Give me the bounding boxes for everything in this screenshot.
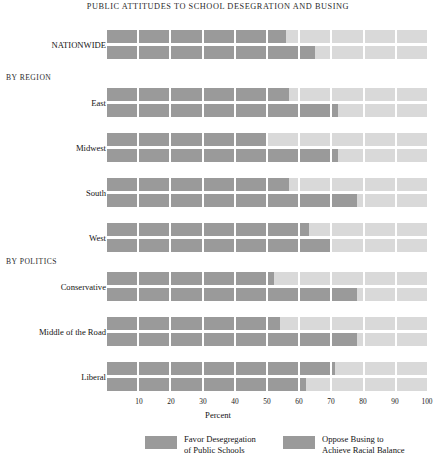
bar-fill (171, 239, 201, 252)
bar-cell (236, 178, 266, 191)
bar-fill (107, 272, 137, 285)
bar-cell (236, 194, 266, 207)
bar-cell (365, 362, 395, 375)
x-axis-tick: 20 (167, 397, 174, 406)
bar-cell (268, 149, 298, 162)
bar-cell (204, 223, 234, 236)
bar-cell (204, 133, 234, 146)
bar-cell (204, 239, 234, 252)
bar-fill (204, 133, 234, 146)
bar-fill (236, 317, 266, 330)
bar-fill (139, 149, 169, 162)
bar-cell (268, 104, 298, 117)
bar-fill (332, 104, 338, 117)
bar-cell (236, 362, 266, 375)
bar-cell (365, 133, 395, 146)
bar-fill (107, 239, 137, 252)
group-heading: BY REGION (6, 73, 51, 82)
bar-fill (204, 30, 234, 43)
bar-fill (171, 178, 201, 191)
row-label: East (91, 99, 106, 108)
bar-fill (139, 317, 169, 330)
bar-fill (300, 104, 330, 117)
bar-cell (107, 194, 137, 207)
bar-cell (204, 317, 234, 330)
bar-cell (139, 272, 169, 285)
bar-fill (300, 149, 330, 162)
bar-cell (268, 133, 298, 146)
bar-fill (204, 288, 234, 301)
bar-cell (171, 239, 201, 252)
bar-fill (171, 149, 201, 162)
bar-fill (300, 333, 330, 346)
bar-cell (397, 194, 427, 207)
legend-label: Favor Desegregationof Public Schools (184, 434, 256, 456)
bar-fill (236, 223, 266, 236)
bar-cell (332, 333, 362, 346)
bar-cell (300, 46, 330, 59)
bar-cell (204, 88, 234, 101)
bar-cell (365, 239, 395, 252)
bar-cell (171, 317, 201, 330)
bar-cell (236, 46, 266, 59)
bar-cell (300, 272, 330, 285)
bar-cell (397, 272, 427, 285)
x-axis-tick: 100 (421, 397, 432, 406)
bar-fill (139, 288, 169, 301)
bar-cell (365, 46, 395, 59)
bar-cell (139, 46, 169, 59)
bar-fill (107, 178, 137, 191)
row-label: Middle of the Road (39, 328, 106, 337)
bar-fill (268, 46, 298, 59)
bar-fill (204, 317, 234, 330)
bar-fill (268, 239, 298, 252)
row-label: Conservative (61, 283, 106, 292)
bar-cell (300, 223, 330, 236)
bar-cell (268, 378, 298, 391)
bar-cell (107, 178, 137, 191)
bar-cell (397, 288, 427, 301)
bar-cell (300, 333, 330, 346)
bar-cell (397, 104, 427, 117)
legend-label-line: of Public Schools (184, 445, 256, 456)
bar-fill (236, 133, 266, 146)
bar-cell (365, 333, 395, 346)
bar-oppose (107, 194, 427, 207)
bar-cell (204, 30, 234, 43)
bar-fill (300, 46, 315, 59)
bar-cell (204, 333, 234, 346)
bar-cell (139, 88, 169, 101)
bar-fill (268, 30, 286, 43)
bar-cell (171, 223, 201, 236)
bar-fill (107, 104, 137, 117)
x-axis-tick: 50 (263, 397, 270, 406)
bar-cell (365, 317, 395, 330)
bar-cell (139, 288, 169, 301)
bar-cell (268, 223, 298, 236)
bar-cell (332, 272, 362, 285)
legend-label-line: Favor Desegregation (184, 434, 256, 445)
bar-cell (397, 239, 427, 252)
bar-cell (300, 317, 330, 330)
bar-fill (139, 239, 169, 252)
bar-cell (107, 317, 137, 330)
bar-fill (236, 333, 266, 346)
bar-cell (397, 333, 427, 346)
row-label: Midwest (76, 144, 106, 153)
legend-swatch (145, 436, 177, 449)
bar-cell (365, 272, 395, 285)
bar-fill (107, 288, 137, 301)
bar-fill (300, 362, 330, 375)
bar-fill (268, 317, 280, 330)
bar-cell (171, 272, 201, 285)
bar-cell (171, 378, 201, 391)
bar-fill (236, 46, 266, 59)
bar-cell (268, 194, 298, 207)
bar-cell (332, 30, 362, 43)
bar-cell (236, 223, 266, 236)
bar-cell (139, 194, 169, 207)
bar-cell (300, 133, 330, 146)
chart-legend: Favor Desegregationof Public SchoolsOppo… (0, 432, 436, 466)
x-axis-tick: 90 (391, 397, 398, 406)
bar-cell (300, 30, 330, 43)
